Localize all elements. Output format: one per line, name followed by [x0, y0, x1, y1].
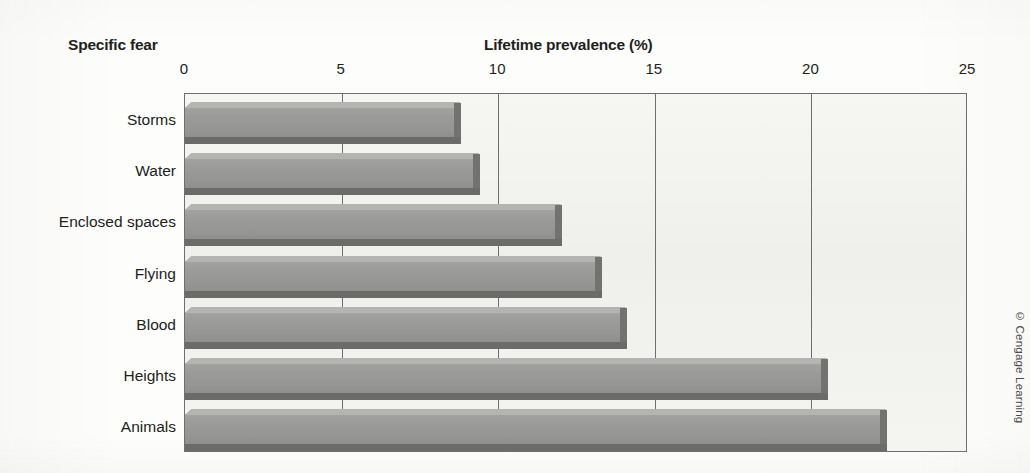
bar-right-face: [473, 154, 480, 188]
chart-figure: Specific fear Lifetime prevalence (%) St…: [0, 0, 1030, 473]
bar-face: [185, 414, 880, 444]
bar-right-face: [821, 359, 828, 393]
bar-bottom-shadow: [185, 291, 602, 298]
x-tick-label: 0: [180, 60, 188, 77]
bar-right-face: [620, 308, 627, 342]
bar-top-highlight: [185, 102, 461, 108]
bar-right-face: [555, 205, 562, 239]
x-tick-label: 15: [645, 60, 662, 77]
bar-right-face: [595, 257, 602, 291]
bar-face: [185, 209, 555, 239]
copyright-notice: © Cengage Learning: [1014, 310, 1026, 423]
bar: [185, 158, 480, 195]
bar-bottom-shadow: [185, 342, 627, 349]
category-axis-title: Specific fear: [68, 36, 158, 54]
bar-face: [185, 363, 821, 393]
bar: [185, 363, 828, 400]
bar: [185, 209, 562, 246]
bar-right-face: [454, 103, 461, 137]
category-label: Heights: [123, 367, 176, 385]
bar-bottom-shadow: [185, 444, 887, 451]
category-label-column: StormsWaterEnclosed spacesFlyingBloodHei…: [0, 93, 176, 452]
x-tick-label: 10: [489, 60, 506, 77]
value-axis-title: Lifetime prevalence (%): [484, 36, 653, 54]
x-tick-label: 5: [336, 60, 344, 77]
bar-bottom-shadow: [185, 188, 480, 195]
bar-bottom-shadow: [185, 137, 461, 144]
plot-area: [184, 93, 967, 452]
x-tick-label: 25: [959, 60, 976, 77]
bar: [185, 312, 627, 349]
category-label: Water: [135, 162, 176, 180]
bar: [185, 414, 887, 451]
bar-top-highlight: [185, 409, 887, 415]
bar-top-highlight: [185, 153, 480, 159]
bar-top-highlight: [185, 358, 827, 364]
bar-top-highlight: [185, 307, 627, 313]
category-label: Flying: [135, 265, 176, 283]
bar-top-highlight: [185, 204, 561, 210]
category-label: Storms: [127, 111, 176, 129]
category-label: Animals: [121, 418, 176, 436]
bar-face: [185, 312, 620, 342]
bar: [185, 107, 461, 144]
bar: [185, 261, 602, 298]
x-tick-label: 20: [802, 60, 819, 77]
bar-face: [185, 107, 454, 137]
bar-face: [185, 261, 595, 291]
category-label: Blood: [136, 316, 176, 334]
category-label: Enclosed spaces: [59, 213, 176, 231]
bar-right-face: [880, 410, 887, 444]
bar-face: [185, 158, 473, 188]
bar-bottom-shadow: [185, 239, 562, 246]
bar-top-highlight: [185, 256, 602, 262]
bar-bottom-shadow: [185, 393, 828, 400]
